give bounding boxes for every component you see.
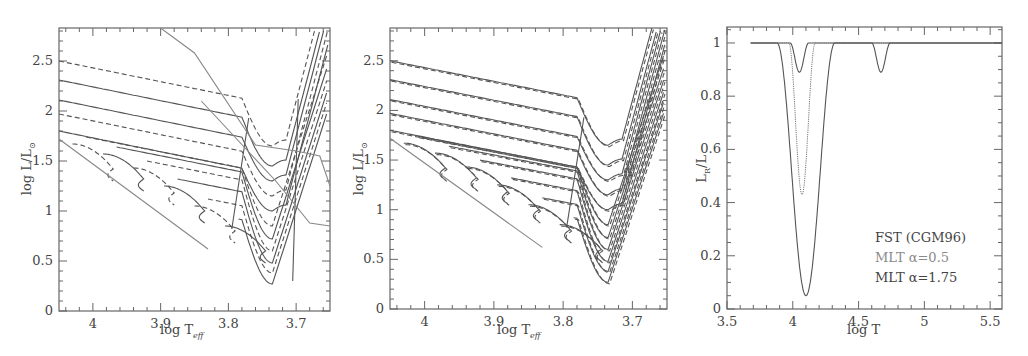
y-tick-label: 2: [45, 103, 53, 118]
y-tick-label: 0: [376, 301, 384, 316]
legend-item-mlt-1-75: MLT α=1.75: [875, 268, 966, 288]
left-ylabel: log L/L⊙: [19, 129, 37, 209]
instability-edge-line: [232, 118, 249, 229]
y-tick-label: 1: [45, 203, 53, 218]
middle-xlabel-main: log T: [497, 322, 530, 337]
y-tick-label: 1: [376, 202, 384, 217]
evolution-track: [195, 206, 236, 243]
right-ylabel-tail: /L: [694, 155, 709, 168]
right-xlabel-main: log T: [847, 322, 880, 337]
y-tick-label: 2.5: [32, 53, 53, 68]
left-xlabel: log Teff: [160, 322, 204, 340]
x-tick-label: 4: [420, 314, 428, 329]
y-tick-label: 0.5: [32, 253, 53, 268]
left-xlabel-sub: eff: [193, 331, 203, 340]
x-tick-label: 5.5: [980, 314, 1001, 329]
right-ylabel-sub: R: [703, 168, 712, 174]
tracks-group: [59, 28, 330, 284]
evolution-track: [103, 154, 144, 191]
right-ylabel: LR/L: [694, 139, 712, 199]
x-tick-label: 4: [789, 314, 797, 329]
series-line: [751, 43, 1002, 195]
zams-line: [59, 139, 208, 249]
middle-ylabel-main: log L/L: [351, 149, 366, 195]
panel-left-hr-diagram: 43.93.83.700.511.522.5: [32, 28, 330, 331]
figure-canvas: 43.93.83.700.511.522.5 43.93.83.700.511.…: [0, 0, 1028, 356]
zams-line: [390, 138, 542, 247]
instability-edge-line: [567, 117, 584, 227]
evolution-track: [497, 185, 539, 222]
y-tick-label: 0.2: [700, 248, 721, 263]
middle-ylabel: log L/L⊙: [351, 129, 369, 209]
evolution-track: [390, 32, 656, 165]
y-tick-label: 1: [713, 35, 721, 50]
series-line: [751, 43, 1002, 72]
red-edge-line: [293, 99, 299, 281]
right-ylabel-main: L: [694, 174, 709, 183]
evolution-track-alt: [392, 34, 658, 167]
legend: FST (CGM96) MLT α=0.5 MLT α=1.75: [875, 228, 966, 288]
evolution-track: [404, 143, 446, 180]
right-xlabel: log T: [847, 322, 880, 337]
evolution-track: [59, 45, 328, 211]
y-tick-label: 2.5: [363, 53, 384, 68]
y-tick-label: 0: [45, 303, 53, 318]
evolution-track: [59, 28, 315, 146]
x-tick-label: 3.8: [218, 316, 239, 331]
evolution-track: [390, 28, 652, 145]
x-tick-label: 3.5: [717, 314, 738, 329]
left-xlabel-main: log T: [160, 322, 193, 337]
evolution-track: [208, 103, 327, 273]
middle-xlabel-sub: eff: [530, 331, 540, 340]
y-tick-label: 0.8: [700, 88, 721, 103]
legend-item-mlt-0-5: MLT α=0.5: [875, 248, 966, 268]
evolution-track: [59, 32, 319, 166]
middle-xlabel: log Teff: [497, 322, 541, 340]
left-ylabel-main: log L/L: [19, 149, 34, 195]
evolution-track: [73, 144, 114, 181]
left-ylabel-sub: ⊙: [28, 142, 37, 149]
x-tick-label: 3.7: [622, 314, 643, 329]
y-tick-label: 0.5: [363, 251, 384, 266]
evolution-track: [529, 205, 571, 242]
y-tick-label: 0: [713, 301, 721, 316]
legend-item-fst: FST (CGM96): [875, 228, 966, 248]
tracks-group: [390, 28, 666, 284]
x-tick-label: 4: [89, 316, 97, 331]
y-tick-label: 2: [376, 102, 384, 117]
x-tick-label: 3.8: [553, 314, 574, 329]
panel-middle-hr-diagram: 43.93.83.700.511.522.5: [363, 28, 667, 329]
evolution-track: [164, 186, 205, 223]
middle-ylabel-sub: ⊙: [360, 142, 369, 149]
x-tick-label: 3.7: [286, 316, 307, 331]
x-tick-label: 5: [920, 314, 928, 329]
